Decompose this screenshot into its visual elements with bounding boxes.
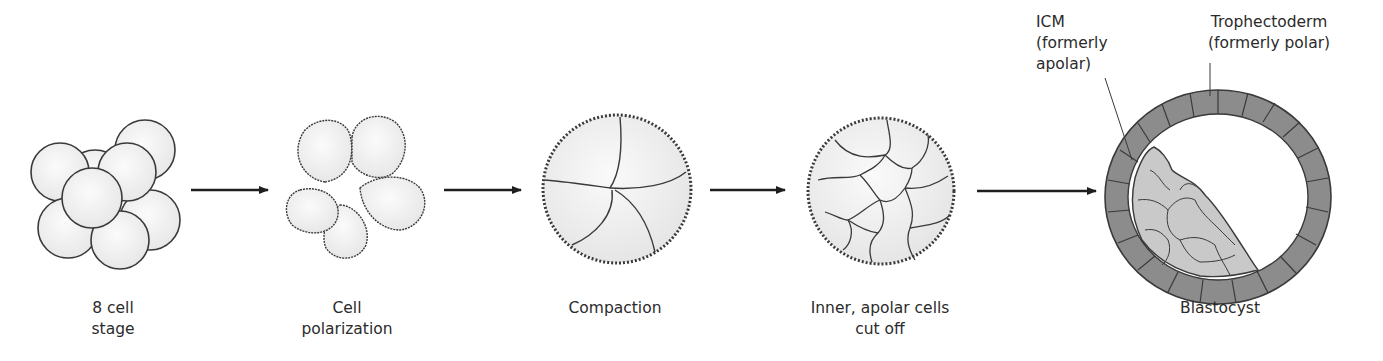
trophectoderm-label: Trophectoderm (formerly polar) (1208, 12, 1330, 54)
stage-label-line: Inner, apolar cells (790, 298, 970, 319)
stage-label-line: Blastocyst (1165, 298, 1275, 319)
stage-label-polarization: Cell polarization (282, 298, 412, 340)
trophectoderm-label-line-2: (formerly polar) (1208, 33, 1330, 54)
stage-label-line: polarization (282, 319, 412, 340)
stage-label-compaction: Compaction (550, 298, 680, 319)
stage-label-line: 8 cell (58, 298, 168, 319)
eight-cell-embryo (31, 120, 180, 269)
inner-cells-embryo (808, 118, 954, 264)
icm-label-line-3: apolar) (1036, 54, 1108, 75)
icm-label-line-1: ICM (1036, 12, 1108, 33)
stage-label-line: stage (58, 319, 168, 340)
stage-label-line: cut off (790, 319, 970, 340)
trophectoderm-label-line-1: Trophectoderm (1208, 12, 1330, 33)
blastocyst (1105, 63, 1331, 304)
polarized-cells (286, 116, 424, 258)
stage-label-eight-cell: 8 cell stage (58, 298, 168, 340)
stage-label-inner-cells: Inner, apolar cells cut off (790, 298, 970, 340)
icm-label-line-2: (formerly (1036, 33, 1108, 54)
stage-label-line: Compaction (550, 298, 680, 319)
compacted-morula (543, 115, 691, 263)
stage-label-line: Cell (282, 298, 412, 319)
stage-label-blastocyst: Blastocyst (1165, 298, 1275, 319)
icm-label: ICM (formerly apolar) (1036, 12, 1108, 75)
